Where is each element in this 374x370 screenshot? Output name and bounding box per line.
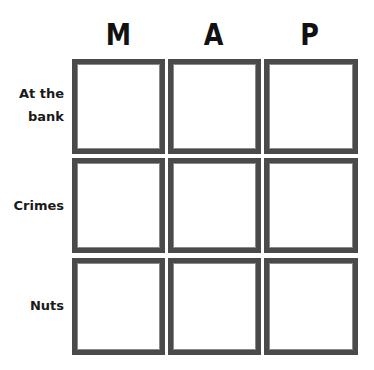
cell-at-the-bank-a[interactable] [168, 59, 261, 154]
cell-nuts-m[interactable] [72, 258, 165, 355]
cell-at-the-bank-p[interactable] [264, 59, 358, 154]
row-label-line2: bank [0, 105, 64, 128]
column-header-p: P [272, 16, 347, 52]
cell-crimes-p[interactable] [264, 158, 358, 253]
row-label-at-the-bank: At the bank [0, 82, 64, 128]
row-label-line1: At the [0, 82, 64, 105]
cell-nuts-a[interactable] [168, 258, 261, 355]
row-label-line1: Crimes [0, 194, 64, 217]
cell-nuts-p[interactable] [264, 258, 358, 355]
column-header-m: M [81, 16, 156, 52]
row-label-line1: Nuts [0, 294, 64, 317]
cell-crimes-a[interactable] [168, 158, 261, 253]
cell-crimes-m[interactable] [72, 158, 165, 253]
column-header-a: A [176, 16, 251, 52]
row-label-nuts: Nuts [0, 294, 64, 317]
row-label-crimes: Crimes [0, 194, 64, 217]
cell-at-the-bank-m[interactable] [72, 59, 165, 154]
